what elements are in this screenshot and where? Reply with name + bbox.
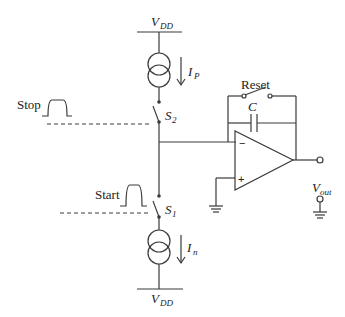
- s1-sub: 1: [172, 209, 177, 219]
- current-source-bottom: I n: [148, 230, 198, 264]
- vout-sub: out: [320, 187, 332, 197]
- output: V out: [293, 157, 332, 218]
- s2-sub: 2: [172, 115, 177, 125]
- s1-label: S: [165, 202, 172, 217]
- circuit-diagram: V DD I P S 2 Stop Start S 1: [0, 0, 345, 317]
- s2-label: S: [165, 108, 172, 123]
- switch-s2: S 2: [153, 100, 177, 125]
- vdd-bottom-sub: DD: [159, 298, 173, 308]
- start-signal: Start: [60, 185, 150, 213]
- current-source-top: I P: [148, 53, 200, 87]
- reset-label: Reset: [241, 77, 270, 92]
- c-label: C: [248, 99, 257, 114]
- ip-sub: P: [193, 71, 200, 81]
- output-terminal: [317, 157, 323, 163]
- minus-sign: −: [239, 137, 245, 149]
- supply-top: V DD: [137, 14, 182, 32]
- pulse-icon: [42, 100, 72, 116]
- supply-bottom: V DD: [137, 289, 183, 308]
- vdd-top-sub: DD: [159, 21, 173, 31]
- ip-label: I: [187, 64, 193, 79]
- capacitor: C: [228, 99, 296, 132]
- ground-icon: [313, 212, 327, 218]
- pulse-icon: [120, 185, 147, 206]
- stop-signal: Stop: [17, 97, 150, 124]
- switch-s1: S 1: [153, 194, 177, 219]
- plus-sign: +: [238, 173, 244, 185]
- start-label: Start: [95, 187, 120, 202]
- ground-icon: [209, 206, 223, 212]
- in-sub: n: [193, 247, 198, 257]
- stop-label: Stop: [17, 97, 41, 112]
- in-label: I: [186, 240, 192, 255]
